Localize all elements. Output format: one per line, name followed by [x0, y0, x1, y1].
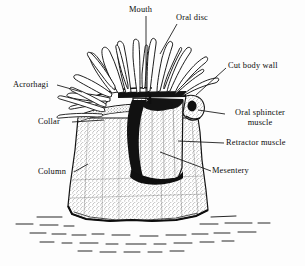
label-column: Column — [38, 167, 66, 177]
leader-acrorhagi — [57, 85, 82, 92]
label-mesentery: Mesentery — [212, 166, 249, 176]
label-acrorhagi: Acrorhagi — [13, 80, 48, 90]
oral-sphincter-region — [183, 95, 204, 120]
label-oral-sphincter-muscle: Oral sphincter muscle — [227, 108, 293, 127]
label-collar: Collar — [38, 117, 60, 127]
label-oral-disc: Oral disc — [176, 13, 208, 23]
label-mouth: Mouth — [129, 5, 152, 15]
anemone-anatomy-figure: Mouth Oral disc Cut body wall Oral sphin… — [0, 0, 305, 266]
label-retractor-muscle: Retractor muscle — [226, 138, 286, 148]
label-cut-body-wall: Cut body wall — [228, 61, 278, 71]
anemone-illustration — [0, 0, 305, 266]
